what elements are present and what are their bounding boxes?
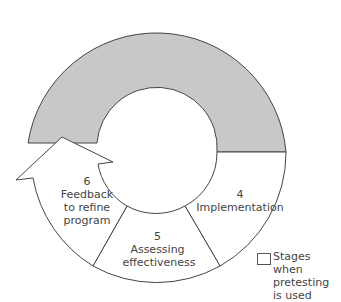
stage-5-text: Assessing effectiveness: [123, 243, 193, 269]
legend-line-3: is used: [273, 289, 341, 302]
stage-6-label: 6 Feedback to refine program: [52, 175, 122, 227]
stage-5-number: 5: [115, 230, 200, 243]
stage-6-line-1: Feedback: [52, 188, 122, 201]
stage-4-label: 4 Implementation: [195, 188, 285, 214]
stage-6-line-2: to refine: [52, 201, 122, 214]
stage-4-text: Implementation: [195, 201, 285, 214]
stage-6-line-3: program: [52, 214, 122, 227]
stage-6-number: 6: [52, 175, 122, 188]
legend-line-2: pretesting: [273, 276, 341, 289]
legend-text: Stages when pretesting is used: [273, 250, 341, 302]
legend-swatch: [257, 253, 271, 265]
legend-line-1: Stages when: [273, 250, 341, 276]
stage-5-label: 5 Assessing effectiveness: [115, 230, 200, 269]
stage-4-number: 4: [195, 188, 285, 201]
pretesting-stages-region: [28, 33, 286, 152]
